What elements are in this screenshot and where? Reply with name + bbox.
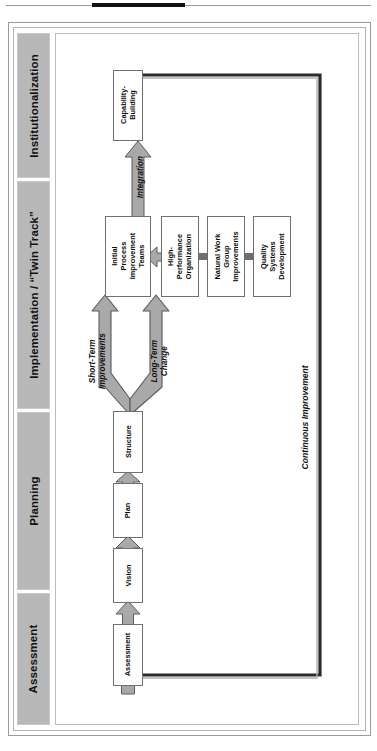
phase-label-institutionalization: Institutionalization (28, 54, 40, 158)
node-label-high-performance-organization: High- Performance Organization (166, 234, 193, 279)
node-label-quality-systems-development: Quality Systems Development (258, 233, 285, 279)
diagram-page: Institutionalization Implementation / “T… (0, 0, 377, 751)
phase-label-planning: Planning (28, 476, 40, 525)
node-label-structure: Structure (123, 426, 132, 459)
node-structure[interactable]: Structure (113, 411, 143, 473)
header-rule-bold (92, 3, 185, 7)
flow-label-continuous-improvement: Continuous Improvement (297, 352, 313, 482)
node-label-natural-work-group-improvements: Natural Work Group Improvements (212, 231, 239, 282)
node-label-vision: Vision (123, 564, 132, 586)
phase-bar-institutionalization: Institutionalization (17, 33, 50, 178)
flow-label-long-term-change-text: Long-Term Change (150, 340, 171, 382)
phase-bar-implementation: Implementation / “Twin Track” (17, 181, 50, 409)
flow-label-long-term-change: Long-Term Change (146, 318, 174, 404)
header-rule (6, 5, 371, 6)
node-capability-building[interactable]: Capability- Building (113, 70, 143, 141)
node-assessment[interactable]: Assessment (113, 624, 143, 686)
flow-label-integration: Integration (133, 146, 149, 208)
flow-label-integration-text: Integration (136, 156, 146, 198)
phase-label-implementation: Implementation / “Twin Track” (28, 211, 40, 379)
node-label-initial-process-improvement-teams: Initial Process Improvement Teams (110, 233, 146, 279)
node-vision[interactable]: Vision (113, 548, 143, 603)
node-label-plan: Plan (123, 503, 132, 519)
node-label-assessment: Assessment (123, 633, 132, 677)
node-plan[interactable]: Plan (113, 483, 143, 538)
phase-label-assessment: Assessment (28, 625, 40, 694)
flow-label-continuous-improvement-text: Continuous Improvement (300, 365, 311, 469)
node-initial-process-improvement-teams[interactable]: Initial Process Improvement Teams (105, 216, 151, 297)
phase-bar-planning: Planning (17, 412, 50, 590)
node-natural-work-group-improvements[interactable]: Natural Work Group Improvements (207, 216, 245, 297)
node-label-capability-building: Capability- Building (119, 87, 137, 125)
phase-bar-assessment: Assessment (17, 593, 50, 725)
flow-label-short-term-improvements: Short-Term Improvements (84, 318, 112, 404)
flow-label-short-term-improvements-text: Short-Term Improvements (88, 333, 109, 389)
node-quality-systems-development[interactable]: Quality Systems Development (253, 216, 291, 297)
node-high-performance-organization[interactable]: High- Performance Organization (161, 216, 199, 297)
